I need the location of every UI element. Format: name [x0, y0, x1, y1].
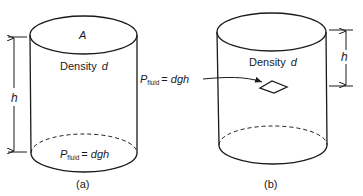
cylinder-b-right-wall	[326, 32, 327, 145]
panel-a: h A Density d Pfluid= dgh (a)	[8, 16, 137, 190]
panel-b: h Density d Pfluid= dgh (b)	[140, 13, 353, 190]
surface-element-diamond-icon	[260, 81, 287, 93]
cylinder-b-bottom-back-dashed	[219, 126, 327, 145]
cylinder-b	[217, 13, 327, 164]
pointer-arrow	[203, 77, 262, 82]
height-label-a: h	[11, 91, 18, 105]
cylinder-a-left-wall	[30, 35, 31, 153]
caption-b: (b)	[264, 178, 277, 190]
fluid-pressure-diagram: h A Density d Pfluid= dgh (a) h Density	[0, 0, 363, 196]
height-label-b: h	[341, 50, 348, 64]
caption-a: (a)	[76, 178, 89, 190]
cylinder-b-bottom-front	[219, 145, 327, 164]
density-label-a: Density d	[60, 60, 109, 72]
area-label-a: A	[78, 29, 86, 41]
cylinder-b-top-ellipse	[217, 13, 326, 51]
pressure-label-b: Pfluid= dgh	[140, 73, 189, 86]
pressure-label-a: Pfluid= dgh	[60, 148, 109, 161]
cylinder-b-left-wall	[217, 32, 219, 145]
density-label-b: Density d	[249, 56, 298, 68]
